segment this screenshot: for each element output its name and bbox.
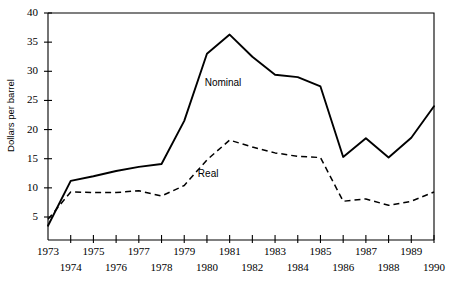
y-axis-tick-label: 15 bbox=[14, 153, 38, 164]
x-axis-tick-label: 1982 bbox=[232, 262, 272, 273]
y-axis-tick-label: 35 bbox=[14, 36, 38, 47]
series-label-nominal: Nominal bbox=[205, 77, 242, 88]
y-axis-tick-label: 5 bbox=[14, 211, 38, 222]
x-axis-tick-label: 1990 bbox=[414, 262, 454, 273]
x-axis-tick-label: 1976 bbox=[96, 262, 136, 273]
x-axis-tick-label: 1987 bbox=[346, 246, 386, 257]
x-axis-tick-label: 1979 bbox=[164, 246, 204, 257]
x-axis-tick-label: 1985 bbox=[300, 246, 340, 257]
x-axis-tick-label: 1973 bbox=[28, 246, 68, 257]
x-axis-tick-label: 1988 bbox=[369, 262, 409, 273]
x-axis-tick-label: 1974 bbox=[51, 262, 91, 273]
plot-area bbox=[0, 0, 459, 283]
y-axis-tick-label: 40 bbox=[14, 7, 38, 18]
x-axis-tick-label: 1989 bbox=[391, 246, 431, 257]
y-axis-tick-label: 20 bbox=[14, 124, 38, 135]
x-axis-tick-label: 1978 bbox=[142, 262, 182, 273]
series-line-nominal bbox=[48, 35, 434, 226]
y-axis-tick-label: 10 bbox=[14, 182, 38, 193]
y-axis-tick-label: 30 bbox=[14, 65, 38, 76]
oil-price-chart: Dollars per barrel 510152025303540197319… bbox=[0, 0, 459, 283]
x-axis-tick-label: 1980 bbox=[187, 262, 227, 273]
x-axis-tick-label: 1981 bbox=[210, 246, 250, 257]
series-label-real: Real bbox=[198, 168, 219, 179]
series-line-real bbox=[48, 140, 434, 219]
plot-frame bbox=[48, 13, 434, 240]
y-axis-tick-label: 25 bbox=[14, 94, 38, 105]
x-axis-ticks bbox=[71, 235, 434, 243]
x-axis-tick-label: 1983 bbox=[255, 246, 295, 257]
x-axis-tick-label: 1977 bbox=[119, 246, 159, 257]
x-axis-tick-label: 1986 bbox=[323, 262, 363, 273]
x-axis-tick-label: 1984 bbox=[278, 262, 318, 273]
x-axis-tick-label: 1975 bbox=[73, 246, 113, 257]
